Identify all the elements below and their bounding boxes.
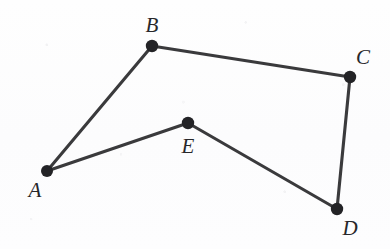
vertex-label-c: C	[356, 47, 370, 68]
edges-group	[47, 46, 350, 209]
vertex-point-b	[146, 40, 158, 52]
vertex-point-d	[331, 203, 343, 215]
geometry-figure: ABCDE	[0, 0, 390, 249]
edge-bc	[152, 46, 350, 77]
vertex-label-d: D	[342, 218, 357, 239]
vertex-label-b: B	[146, 15, 159, 36]
vertex-point-e	[182, 117, 194, 129]
vertex-label-a: A	[29, 180, 42, 201]
edge-de	[188, 123, 337, 209]
edge-cd	[337, 77, 350, 209]
vertex-point-a	[41, 165, 53, 177]
vertex-point-c	[344, 71, 356, 83]
figure-canvas	[0, 0, 390, 249]
vertex-label-e: E	[182, 136, 195, 157]
